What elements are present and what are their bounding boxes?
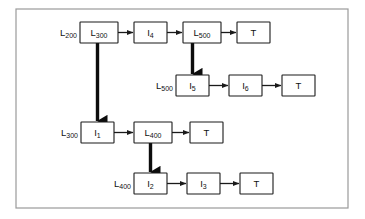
entry-label-l500: L500 [156,80,173,92]
node-t[interactable]: T [240,173,273,194]
node-label: T [204,127,210,138]
connection-layer [98,33,282,184]
diagram-border [16,9,348,208]
node-label: T [254,178,260,189]
node-l400[interactable]: L400 [134,122,172,143]
node-l300[interactable]: L300 [80,22,118,43]
node-l500[interactable]: L500 [183,22,221,43]
flow-diagram: L300I4L500TI5I6TI1L400TI2I3T L200L500L30… [0,0,365,219]
node-i1[interactable]: I1 [81,122,114,143]
entry-label-l200: L200 [60,27,77,39]
entry-label-layer: L200L500L300L400 [60,27,173,190]
node-i4[interactable]: I4 [134,22,167,43]
node-layer: L300I4L500TI5I6TI1L400TI2I3T [80,22,315,194]
node-i2[interactable]: I2 [134,173,167,194]
node-label: T [296,80,302,91]
node-t[interactable]: T [237,22,270,43]
entry-label-l400: L400 [114,178,131,190]
node-i3[interactable]: I3 [187,173,220,194]
diagram-canvas: L300I4L500TI5I6TI1L400TI2I3T L200L500L30… [0,0,365,219]
diagram-frame [16,9,348,208]
node-t[interactable]: T [282,75,315,96]
node-t[interactable]: T [190,122,223,143]
node-label: T [251,27,257,38]
entry-label-l300: L300 [61,127,78,139]
node-i5[interactable]: I5 [176,75,209,96]
node-i6[interactable]: I6 [229,75,262,96]
